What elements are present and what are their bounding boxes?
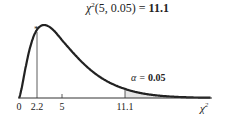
x-tick-label-2-2: 2.2 (31, 101, 44, 112)
alpha-label: α = 0.05 (131, 72, 166, 83)
x-tick-label-11-1: 11.1 (116, 101, 133, 112)
x-axis-sup: 2 (205, 101, 209, 109)
alpha-value: 0.05 (148, 72, 166, 83)
density-curve (19, 25, 211, 98)
x-axis-label: χ2 (200, 101, 208, 114)
alpha-symbol: α = (131, 72, 148, 83)
observed-marker-star: * (34, 24, 39, 34)
x-tick-label-5: 5 (60, 101, 65, 112)
x-tick-label-0: 0 (17, 101, 22, 112)
